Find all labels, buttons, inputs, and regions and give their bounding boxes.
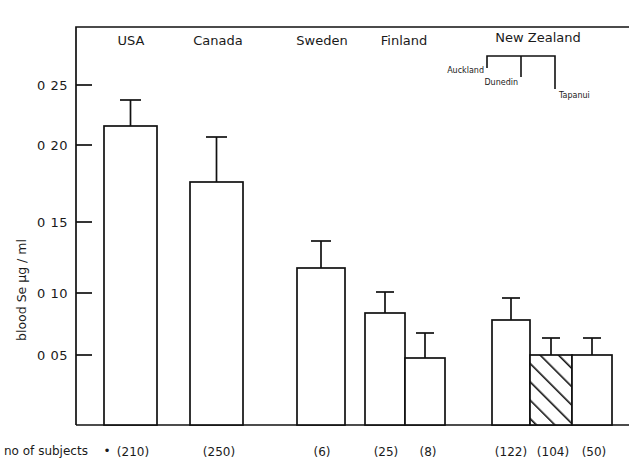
- subgroup-label-tapanui: Tapanui: [558, 91, 590, 100]
- ytick-label-005: 0 05: [37, 348, 68, 363]
- bar-finland-a: [365, 292, 405, 425]
- footer-label: no of subjects: [4, 444, 88, 458]
- y-axis-ticks: [76, 85, 92, 355]
- bar-finland-b: [405, 333, 445, 425]
- bar-auckland: [492, 298, 530, 425]
- count-tapanui: (50): [582, 445, 607, 459]
- count-sweden: (6): [314, 445, 331, 459]
- subgroup-label-auckland: Auckland: [447, 66, 484, 75]
- ytick-label-025: 0 25: [37, 78, 68, 93]
- group-label-finland: Finland: [381, 33, 427, 48]
- ytick-label-010: 0 10: [37, 286, 68, 301]
- ytick-label-015: 0 15: [37, 215, 68, 230]
- bar-sweden: [297, 241, 345, 425]
- chart-figure: 0 25 0 20 0 15 0 10 0 05 blood Se µg / m…: [0, 0, 630, 466]
- subject-counts-row: no of subjects • (210) (250) (6) (25) (8…: [4, 444, 606, 459]
- y-axis-title: blood Se µg / ml: [14, 239, 29, 341]
- footer-dot: •: [103, 444, 110, 458]
- bar-usa: [104, 100, 157, 425]
- subgroup-label-dunedin: Dunedin: [484, 78, 518, 87]
- group-label-usa: USA: [118, 33, 145, 48]
- count-finland-a: (25): [374, 445, 399, 459]
- bars: [104, 100, 612, 425]
- bar-tapanui: [572, 338, 612, 425]
- y-axis-tick-labels: 0 25 0 20 0 15 0 10 0 05: [37, 78, 68, 363]
- bar-dunedin: [530, 338, 572, 425]
- count-usa: (210): [117, 445, 149, 459]
- group-labels: USA Canada Sweden Finland New Zealand: [118, 30, 581, 48]
- ytick-label-020: 0 20: [37, 138, 68, 153]
- group-label-sweden: Sweden: [296, 33, 347, 48]
- count-dunedin: (104): [537, 445, 569, 459]
- bar-chart-svg: 0 25 0 20 0 15 0 10 0 05 blood Se µg / m…: [0, 0, 630, 466]
- group-label-canada: Canada: [193, 33, 242, 48]
- new-zealand-subgroup-bracket: Auckland Dunedin Tapanui: [447, 56, 590, 100]
- count-finland-b: (8): [420, 445, 437, 459]
- bar-canada: [190, 137, 243, 425]
- count-auckland: (122): [495, 445, 527, 459]
- group-label-new-zealand: New Zealand: [495, 30, 580, 45]
- count-canada: (250): [203, 445, 235, 459]
